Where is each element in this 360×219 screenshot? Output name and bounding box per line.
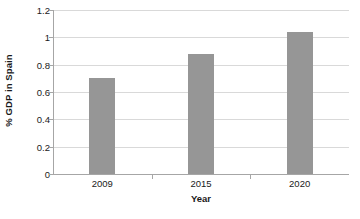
bar-chart-figure: % GDP in Spain 00.20.40.60.811.2 2009201… — [0, 0, 360, 219]
y-axis-tick-labels: 00.20.40.60.811.2 — [18, 10, 50, 175]
y-tick-mark — [49, 147, 53, 148]
y-tick-mark — [49, 119, 53, 120]
y-tick-mark — [49, 92, 53, 93]
y-tick-mark — [49, 65, 53, 66]
y-axis-title-label: % GDP in Spain — [3, 54, 14, 127]
x-axis-tick-labels: 200920152020 — [53, 178, 349, 192]
plot-area — [53, 10, 349, 175]
x-tick-label-2020: 2020 — [289, 178, 310, 189]
y-axis-title: % GDP in Spain — [0, 0, 16, 180]
x-tick-label-2015: 2015 — [190, 178, 211, 189]
bar-2009 — [89, 78, 115, 174]
bar-2015 — [188, 54, 214, 174]
x-axis-title: Year — [53, 193, 349, 204]
bars-group — [53, 10, 349, 175]
y-tick-mark — [49, 10, 53, 11]
y-tick-mark — [49, 37, 53, 38]
bar-2020 — [287, 32, 313, 174]
x-tick-label-2009: 2009 — [92, 178, 113, 189]
y-tick-mark — [49, 174, 53, 175]
